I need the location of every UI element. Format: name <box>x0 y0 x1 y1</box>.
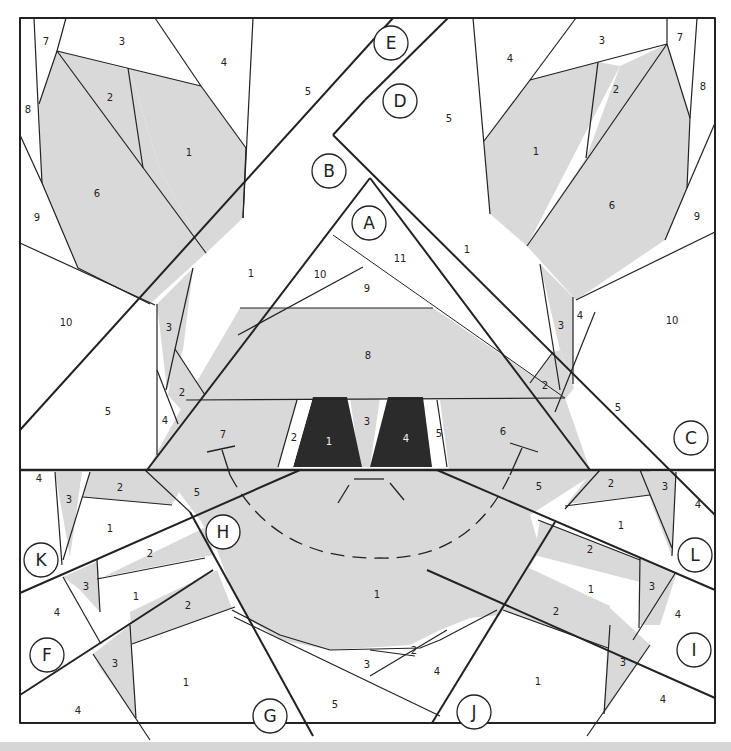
svg-text:4: 4 <box>75 705 81 716</box>
svg-text:5: 5 <box>305 86 311 97</box>
svg-text:E: E <box>386 33 397 53</box>
svg-text:2: 2 <box>291 432 297 443</box>
svg-text:2: 2 <box>185 600 191 611</box>
svg-text:1: 1 <box>107 523 113 534</box>
svg-text:7: 7 <box>43 36 49 47</box>
svg-text:7: 7 <box>220 429 226 440</box>
svg-text:1: 1 <box>533 146 539 157</box>
svg-text:1: 1 <box>248 268 254 279</box>
svg-text:4: 4 <box>36 473 42 484</box>
footer-bar <box>0 742 731 751</box>
svg-text:9: 9 <box>694 211 700 222</box>
section-marker-k: K <box>24 543 58 577</box>
svg-text:2: 2 <box>613 84 619 95</box>
svg-text:2: 2 <box>107 92 113 103</box>
svg-text:1: 1 <box>326 436 332 447</box>
svg-text:6: 6 <box>609 200 615 211</box>
svg-text:B: B <box>323 161 335 181</box>
svg-text:4: 4 <box>577 310 583 321</box>
svg-text:3: 3 <box>112 658 118 669</box>
svg-text:3: 3 <box>649 581 655 592</box>
svg-text:G: G <box>263 706 276 726</box>
svg-text:1: 1 <box>618 520 624 531</box>
section-marker-b: B <box>312 154 346 188</box>
svg-text:1: 1 <box>133 591 139 602</box>
svg-text:2: 2 <box>411 645 417 656</box>
svg-text:2: 2 <box>117 482 123 493</box>
svg-text:A: A <box>363 213 375 233</box>
section-marker-e: E <box>374 26 408 60</box>
svg-text:7: 7 <box>677 32 683 43</box>
svg-text:3: 3 <box>364 416 370 427</box>
svg-text:1: 1 <box>374 589 380 600</box>
svg-text:9: 9 <box>364 283 370 294</box>
section-marker-l: L <box>678 538 712 572</box>
svg-text:3: 3 <box>662 481 668 492</box>
svg-text:1: 1 <box>535 676 541 687</box>
section-marker-i: I <box>677 633 711 667</box>
svg-text:8: 8 <box>700 81 706 92</box>
svg-text:3: 3 <box>599 35 605 46</box>
svg-text:J: J <box>470 702 476 722</box>
svg-text:3: 3 <box>166 322 172 333</box>
svg-text:4: 4 <box>221 57 227 68</box>
section-marker-d: D <box>383 84 417 118</box>
svg-text:I: I <box>691 640 696 660</box>
svg-text:4: 4 <box>434 666 440 677</box>
svg-text:4: 4 <box>162 415 168 426</box>
svg-text:C: C <box>685 428 697 448</box>
svg-text:5: 5 <box>332 699 338 710</box>
svg-text:5: 5 <box>446 113 452 124</box>
svg-text:4: 4 <box>507 53 513 64</box>
svg-text:10: 10 <box>60 317 73 328</box>
svg-text:2: 2 <box>587 544 593 555</box>
svg-text:4: 4 <box>675 609 681 620</box>
svg-text:L: L <box>690 545 700 565</box>
svg-text:4: 4 <box>403 433 409 444</box>
svg-text:4: 4 <box>695 499 701 510</box>
svg-text:3: 3 <box>119 36 125 47</box>
svg-text:8: 8 <box>25 104 31 115</box>
section-marker-h: H <box>206 515 240 549</box>
svg-text:5: 5 <box>105 406 111 417</box>
svg-text:3: 3 <box>83 581 89 592</box>
svg-text:H: H <box>217 522 230 542</box>
svg-text:2: 2 <box>542 380 548 391</box>
svg-text:1: 1 <box>186 147 192 158</box>
section-marker-j: J <box>457 695 491 729</box>
svg-text:4: 4 <box>660 694 666 705</box>
svg-text:5: 5 <box>536 481 542 492</box>
section-marker-g: G <box>253 699 287 733</box>
svg-text:2: 2 <box>608 478 614 489</box>
svg-text:3: 3 <box>620 657 626 668</box>
section-marker-f: F <box>30 638 64 672</box>
section-marker-c: C <box>674 421 708 455</box>
section-marker-a: A <box>352 206 386 240</box>
svg-text:K: K <box>35 550 47 570</box>
svg-text:3: 3 <box>364 659 370 670</box>
svg-text:2: 2 <box>179 387 185 398</box>
svg-text:1: 1 <box>183 677 189 688</box>
svg-text:10: 10 <box>314 269 327 280</box>
quilt-pattern-diagram: E D B A C H K L F I G J 7 3 4 8 2 1 5 6 … <box>0 0 731 742</box>
svg-text:10: 10 <box>666 315 679 326</box>
svg-text:11: 11 <box>394 253 407 264</box>
svg-text:9: 9 <box>34 212 40 223</box>
svg-text:1: 1 <box>588 584 594 595</box>
svg-text:6: 6 <box>500 426 506 437</box>
svg-text:3: 3 <box>558 320 564 331</box>
gray-fills <box>39 44 690 718</box>
svg-text:5: 5 <box>615 402 621 413</box>
svg-text:1: 1 <box>464 244 470 255</box>
svg-text:5: 5 <box>436 428 442 439</box>
svg-text:2: 2 <box>147 548 153 559</box>
svg-text:2: 2 <box>553 606 559 617</box>
svg-text:8: 8 <box>365 350 371 361</box>
svg-text:D: D <box>393 91 406 111</box>
svg-text:3: 3 <box>66 494 72 505</box>
svg-text:4: 4 <box>54 607 60 618</box>
svg-text:6: 6 <box>94 188 100 199</box>
svg-text:F: F <box>42 645 52 665</box>
svg-text:5: 5 <box>194 487 200 498</box>
